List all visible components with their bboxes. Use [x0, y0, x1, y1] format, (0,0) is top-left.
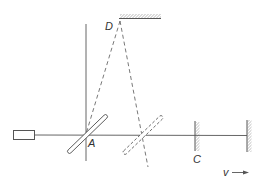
label-v: v	[223, 166, 230, 178]
light-source-box	[14, 131, 35, 140]
label-c: C	[193, 153, 201, 165]
mirror-c	[195, 121, 200, 151]
mirror-d	[119, 14, 161, 19]
velocity-arrow-icon	[232, 171, 249, 175]
interferometer-diagram: D A C v	[0, 0, 269, 188]
label-d: D	[105, 20, 113, 32]
label-a: A	[87, 137, 95, 149]
mirror-end	[247, 120, 252, 152]
